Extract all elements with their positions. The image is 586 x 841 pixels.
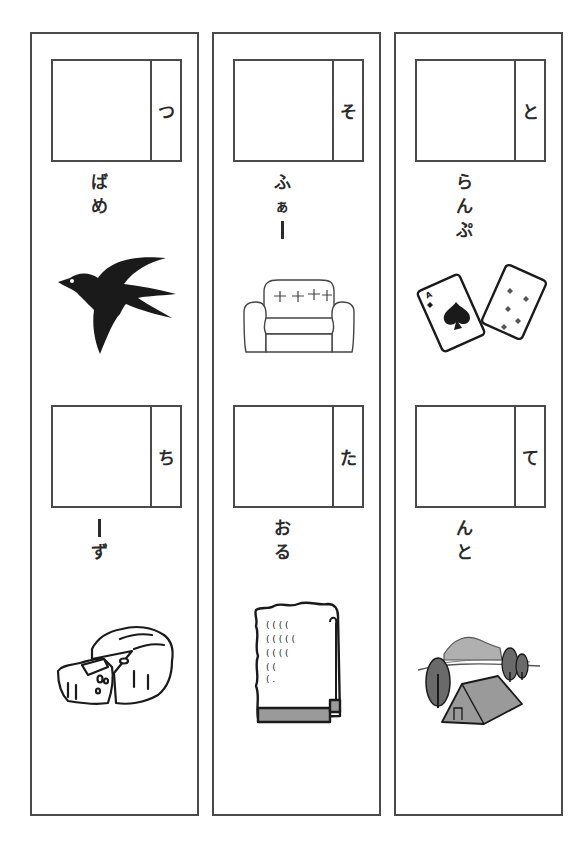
sofa-icon	[238, 274, 358, 354]
word-remaining: ら ん ぷ	[449, 170, 479, 242]
word-remaining: お る	[267, 516, 297, 564]
svg-text:( ( ( (: ( ( ( (	[266, 620, 289, 630]
word-char: め	[91, 194, 108, 218]
word-remaining: ば め	[84, 170, 114, 218]
long-vowel-mark	[281, 221, 284, 239]
svg-text:( (: ( (	[266, 662, 276, 672]
word-char: ら	[456, 170, 473, 194]
hint-char: そ	[332, 61, 362, 160]
swallow-icon	[54, 244, 184, 364]
hint-char: た	[332, 407, 362, 506]
svg-text:( ( ( (: ( ( ( (	[266, 648, 289, 658]
long-vowel-mark	[98, 519, 101, 537]
hint-char: と	[514, 61, 544, 160]
word-char: と	[456, 540, 473, 564]
word-char: ふ	[274, 170, 291, 194]
worksheet-column-1: つ ば め ち ず	[30, 32, 199, 816]
writing-area[interactable]	[53, 61, 152, 160]
svg-text:( ( ( ( (: ( ( ( ( (	[266, 634, 295, 644]
writing-area[interactable]	[417, 407, 516, 506]
hint-char: つ	[150, 61, 180, 160]
worksheet-column-2: そ ふ ぁ た お る	[212, 32, 381, 816]
towel-icon: ( ( ( ( ( ( ( ( ( ( ( ( ( ( ( ( .	[248, 596, 348, 732]
answer-box: ち	[51, 405, 182, 508]
answer-box: と	[415, 59, 546, 162]
worksheet-column-3: と ら ん ぷ A て ん と	[394, 32, 563, 816]
hint-char: ち	[150, 407, 180, 506]
answer-box: つ	[51, 59, 182, 162]
playing-cards-icon: A	[414, 262, 550, 362]
writing-area[interactable]	[235, 61, 334, 160]
writing-area[interactable]	[235, 407, 334, 506]
svg-text:( .: ( .	[266, 674, 275, 684]
word-char: ん	[456, 516, 473, 540]
writing-area[interactable]	[417, 61, 516, 160]
word-char: ぷ	[456, 218, 473, 242]
answer-box: た	[233, 405, 364, 508]
tent-campsite-icon	[410, 624, 550, 734]
hint-char: て	[514, 407, 544, 506]
writing-area[interactable]	[53, 407, 152, 506]
word-char: る	[274, 540, 291, 564]
cheese-icon	[48, 609, 178, 709]
word-remaining: ふ ぁ	[267, 170, 297, 242]
word-remaining: ん と	[449, 516, 479, 564]
word-char: ば	[91, 170, 108, 194]
word-char: ぁ	[275, 194, 289, 218]
word-remaining: ず	[84, 516, 114, 564]
word-char: お	[274, 516, 291, 540]
answer-box: て	[415, 405, 546, 508]
answer-box: そ	[233, 59, 364, 162]
word-char: ず	[91, 540, 108, 564]
word-char: ん	[456, 194, 473, 218]
